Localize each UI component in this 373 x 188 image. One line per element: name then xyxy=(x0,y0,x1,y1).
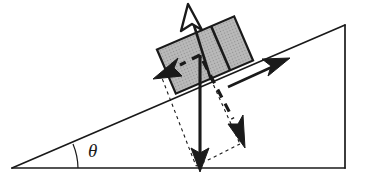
incline-force-diagram: θ xyxy=(0,0,373,188)
angle-arc xyxy=(73,144,78,168)
normal-force-head xyxy=(181,4,202,31)
up-slope-head xyxy=(262,58,290,76)
diagram-canvas xyxy=(0,0,373,188)
up-slope-shaft xyxy=(228,67,272,87)
perpendicular-component-head xyxy=(228,115,245,148)
incline-angle-label: θ xyxy=(88,141,97,160)
